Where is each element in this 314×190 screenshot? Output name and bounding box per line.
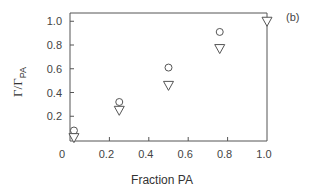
circle-marker — [116, 99, 123, 106]
triangle-marker — [215, 45, 225, 54]
x-tick-label: 0.8 — [217, 148, 232, 160]
circle-marker — [70, 127, 77, 134]
triangle-marker — [164, 81, 174, 90]
y-tick-label: 0.8 — [47, 39, 62, 51]
svg-text:Γ/ΓPA: Γ/ΓPA — [10, 67, 28, 97]
circle-marker — [216, 28, 223, 35]
x-tick-label: 0.6 — [178, 148, 193, 160]
x-tick-label: 0 — [59, 148, 65, 160]
triangle-marker — [114, 106, 124, 115]
circle-marker — [165, 64, 172, 71]
y-axis-label-subscript: PA — [18, 67, 28, 78]
triangle-marker — [262, 17, 272, 26]
x-tick-label: 1.0 — [256, 148, 271, 160]
data-points — [69, 17, 272, 142]
plot-frame — [70, 13, 267, 141]
panel-label: (b) — [286, 11, 299, 23]
x-tick-label: 0.4 — [138, 148, 153, 160]
x-axis-label: Fraction PA — [131, 173, 193, 187]
x-tick-label: 0.2 — [99, 148, 114, 160]
y-tick-label: 0.4 — [47, 87, 62, 99]
y-tick-label: 0.2 — [47, 110, 62, 122]
scatter-chart: 00.20.40.60.81.0 0.20.40.60.81.0 Fractio… — [0, 0, 314, 190]
x-axis-ticks: 00.20.40.60.81.0 — [59, 137, 272, 160]
y-axis-label: Γ/ΓPA — [10, 67, 28, 97]
y-tick-label: 1.0 — [47, 15, 62, 27]
y-axis-label-main: Γ/Γ — [10, 78, 25, 97]
y-tick-label: 0.6 — [47, 63, 62, 75]
